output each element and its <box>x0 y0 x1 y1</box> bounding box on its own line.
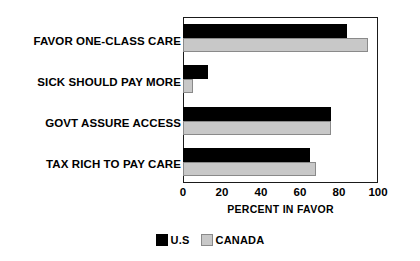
x-tick-label-20: 20 <box>216 186 229 198</box>
category-label-0-text: FAVOR ONE-CLASS CARE <box>34 35 181 47</box>
x-tick-label-0: 0 <box>180 186 186 198</box>
bar-canada-3 <box>183 162 316 176</box>
black-square-icon <box>156 234 168 246</box>
bar-us-1 <box>183 65 208 79</box>
bar-canada-2 <box>183 121 331 135</box>
x-axis-title: PERCENT IN FAVOR <box>183 203 378 215</box>
category-label-2-text: GOVT ASSURE ACCESS <box>45 117 181 129</box>
x-tick-label-40: 40 <box>255 186 268 198</box>
bar-chart-figure: FAVOR ONE-CLASS CARE SICK SHOULD PAY MOR… <box>0 0 420 261</box>
x-axis-tick-labels: 020406080100 <box>0 186 420 200</box>
category-label-1-text: SICK SHOULD PAY MORE <box>37 76 181 88</box>
bar-us-3 <box>183 148 310 162</box>
category-label-2: GOVT ASSURE ACCESS <box>0 117 181 129</box>
bar-us-0 <box>183 24 347 38</box>
category-label-1: SICK SHOULD PAY MORE <box>0 76 181 88</box>
bars-layer <box>183 17 378 183</box>
bar-canada-1 <box>183 79 193 93</box>
x-tick-label-80: 80 <box>333 186 346 198</box>
category-label-3-text: TAX RICH TO PAY CARE <box>46 158 181 170</box>
category-label-0: FAVOR ONE-CLASS CARE <box>0 35 181 47</box>
legend-entry-us: U.S <box>156 234 190 246</box>
bar-canada-0 <box>183 38 368 52</box>
bar-us-2 <box>183 107 331 121</box>
legend-entry-canada: CANADA <box>201 234 265 246</box>
gray-square-icon <box>201 234 213 246</box>
x-tick-label-60: 60 <box>294 186 307 198</box>
legend-label-canada: CANADA <box>216 234 265 246</box>
chart-legend: U.S CANADA <box>0 234 420 246</box>
x-tick-label-100: 100 <box>368 186 387 198</box>
category-label-3: TAX RICH TO PAY CARE <box>0 158 181 170</box>
legend-label-us: U.S <box>171 234 190 246</box>
